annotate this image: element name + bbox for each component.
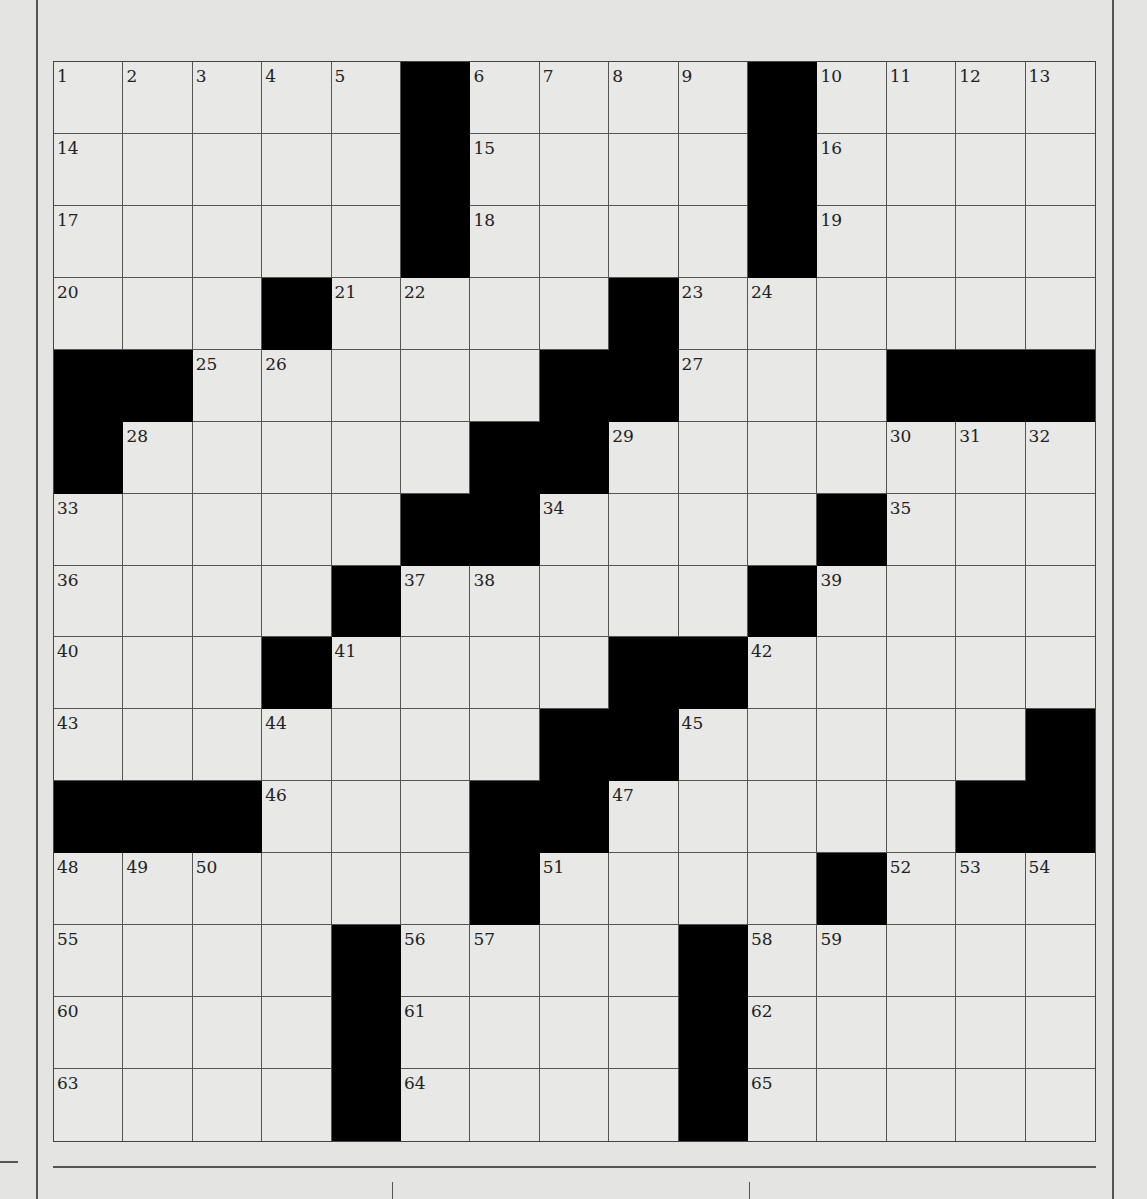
- grid-cell[interactable]: [332, 422, 401, 494]
- grid-cell[interactable]: 8: [609, 62, 678, 134]
- grid-cell[interactable]: [1026, 494, 1095, 566]
- grid-cell[interactable]: [609, 134, 678, 206]
- grid-cell[interactable]: 61: [401, 997, 470, 1069]
- grid-cell[interactable]: [262, 925, 331, 997]
- grid-cell[interactable]: 38: [470, 566, 539, 638]
- grid-cell[interactable]: [193, 997, 262, 1069]
- grid-cell[interactable]: [123, 637, 192, 709]
- grid-cell[interactable]: [332, 853, 401, 925]
- grid-cell[interactable]: [262, 566, 331, 638]
- grid-cell[interactable]: [609, 853, 678, 925]
- grid-cell[interactable]: 20: [54, 278, 123, 350]
- grid-cell[interactable]: [817, 422, 886, 494]
- grid-cell[interactable]: 64: [401, 1069, 470, 1141]
- grid-cell[interactable]: [679, 494, 748, 566]
- grid-cell[interactable]: 36: [54, 566, 123, 638]
- grid-cell[interactable]: [332, 350, 401, 422]
- grid-cell[interactable]: [679, 422, 748, 494]
- grid-cell[interactable]: 51: [540, 853, 609, 925]
- grid-cell[interactable]: [540, 1069, 609, 1141]
- grid-cell[interactable]: [817, 1069, 886, 1141]
- grid-cell[interactable]: [817, 997, 886, 1069]
- grid-cell[interactable]: [679, 134, 748, 206]
- grid-cell[interactable]: [470, 637, 539, 709]
- grid-cell[interactable]: [262, 422, 331, 494]
- grid-cell[interactable]: 65: [748, 1069, 817, 1141]
- grid-cell[interactable]: 63: [54, 1069, 123, 1141]
- grid-cell[interactable]: [123, 997, 192, 1069]
- grid-cell[interactable]: 47: [609, 781, 678, 853]
- grid-cell[interactable]: 17: [54, 206, 123, 278]
- grid-cell[interactable]: [956, 637, 1025, 709]
- grid-cell[interactable]: [679, 206, 748, 278]
- grid-cell[interactable]: [609, 997, 678, 1069]
- grid-cell[interactable]: [609, 566, 678, 638]
- grid-cell[interactable]: [540, 206, 609, 278]
- grid-cell[interactable]: [609, 925, 678, 997]
- grid-cell[interactable]: 50: [193, 853, 262, 925]
- grid-cell[interactable]: [193, 134, 262, 206]
- grid-cell[interactable]: [679, 566, 748, 638]
- grid-cell[interactable]: 60: [54, 997, 123, 1069]
- grid-cell[interactable]: 5: [332, 62, 401, 134]
- grid-cell[interactable]: [817, 709, 886, 781]
- grid-cell[interactable]: [123, 134, 192, 206]
- grid-cell[interactable]: [193, 494, 262, 566]
- grid-cell[interactable]: [262, 494, 331, 566]
- grid-cell[interactable]: [887, 637, 956, 709]
- grid-cell[interactable]: [540, 278, 609, 350]
- grid-cell[interactable]: 6: [470, 62, 539, 134]
- grid-cell[interactable]: 15: [470, 134, 539, 206]
- grid-cell[interactable]: [332, 709, 401, 781]
- grid-cell[interactable]: 43: [54, 709, 123, 781]
- grid-cell[interactable]: [956, 709, 1025, 781]
- grid-cell[interactable]: [470, 997, 539, 1069]
- grid-cell[interactable]: [332, 206, 401, 278]
- grid-cell[interactable]: [609, 1069, 678, 1141]
- grid-cell[interactable]: [817, 637, 886, 709]
- grid-cell[interactable]: [887, 781, 956, 853]
- grid-cell[interactable]: [262, 1069, 331, 1141]
- grid-cell[interactable]: 56: [401, 925, 470, 997]
- grid-cell[interactable]: [887, 925, 956, 997]
- grid-cell[interactable]: 26: [262, 350, 331, 422]
- grid-cell[interactable]: [123, 494, 192, 566]
- grid-cell[interactable]: [193, 278, 262, 350]
- grid-cell[interactable]: 46: [262, 781, 331, 853]
- grid-cell[interactable]: [887, 566, 956, 638]
- grid-cell[interactable]: [887, 709, 956, 781]
- grid-cell[interactable]: [193, 566, 262, 638]
- grid-cell[interactable]: 37: [401, 566, 470, 638]
- grid-cell[interactable]: [123, 206, 192, 278]
- grid-cell[interactable]: 2: [123, 62, 192, 134]
- grid-cell[interactable]: [540, 566, 609, 638]
- grid-cell[interactable]: 52: [887, 853, 956, 925]
- grid-cell[interactable]: [262, 206, 331, 278]
- grid-cell[interactable]: [956, 566, 1025, 638]
- grid-cell[interactable]: [956, 206, 1025, 278]
- grid-cell[interactable]: 3: [193, 62, 262, 134]
- grid-cell[interactable]: [1026, 278, 1095, 350]
- grid-cell[interactable]: 4: [262, 62, 331, 134]
- grid-cell[interactable]: [193, 925, 262, 997]
- grid-cell[interactable]: 7: [540, 62, 609, 134]
- grid-cell[interactable]: 16: [817, 134, 886, 206]
- grid-cell[interactable]: [817, 781, 886, 853]
- grid-cell[interactable]: [1026, 1069, 1095, 1141]
- grid-cell[interactable]: [401, 781, 470, 853]
- grid-cell[interactable]: [748, 494, 817, 566]
- grid-cell[interactable]: 14: [54, 134, 123, 206]
- grid-cell[interactable]: 13: [1026, 62, 1095, 134]
- grid-cell[interactable]: [401, 350, 470, 422]
- grid-cell[interactable]: [748, 350, 817, 422]
- grid-cell[interactable]: [470, 1069, 539, 1141]
- grid-cell[interactable]: [956, 1069, 1025, 1141]
- grid-cell[interactable]: 33: [54, 494, 123, 566]
- grid-cell[interactable]: [123, 925, 192, 997]
- grid-cell[interactable]: 11: [887, 62, 956, 134]
- grid-cell[interactable]: 28: [123, 422, 192, 494]
- grid-cell[interactable]: [470, 278, 539, 350]
- grid-cell[interactable]: 59: [817, 925, 886, 997]
- grid-cell[interactable]: [748, 781, 817, 853]
- grid-cell[interactable]: [1026, 637, 1095, 709]
